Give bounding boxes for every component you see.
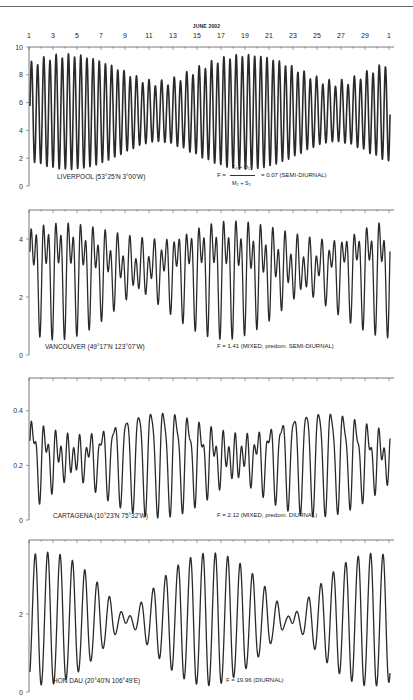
tide-panel-0: 0246810 [15, 44, 394, 190]
y-tick-label: 2 [19, 155, 23, 162]
y-tick-label: 0 [19, 352, 23, 359]
form-factor-hon-dau: F = 19.96 (DIURNAL) [226, 677, 284, 683]
tide-curve [30, 552, 390, 686]
station-label-hon-dau: HON DAU (20°40'N 106°49'E) [53, 677, 140, 684]
y-tick-label: 2 [19, 611, 23, 618]
y-tick-label: 6 [19, 99, 23, 106]
formula-numerator: K₁ + O₁ [232, 164, 250, 170]
y-tick-label: 0.2 [13, 462, 23, 469]
tide-curve [30, 54, 390, 170]
form-factor-vancouver: F = 1.41 (MIXED, predom. SEMI-DIURNAL) [217, 343, 334, 349]
y-tick-label: 0 [19, 517, 23, 524]
y-tick-label: 0 [19, 689, 23, 696]
y-tick-label: 4 [19, 236, 23, 243]
tide-panel-1: 024 [19, 210, 394, 359]
tide-plot-area: 024681002400.20.402 [0, 0, 413, 700]
station-label-liverpool: LIVERPOOL (53°25'N 3°00'W) [57, 173, 145, 180]
y-tick-label: 8 [19, 71, 23, 78]
station-label-vancouver: VANCOUVER (49°17'N 123°07'W) [45, 343, 145, 350]
y-tick-label: 10 [15, 44, 23, 51]
y-tick-label: 2 [19, 294, 23, 301]
formula-denominator: M₂ + S₂ [232, 180, 251, 186]
form-factor-cartagena: F = 2.12 (MIXED, predom. DIURNAL) [217, 512, 317, 518]
formula-fraction-line [230, 175, 255, 176]
y-tick-label: 0 [19, 183, 23, 190]
tide-panel-3: 02 [19, 540, 394, 696]
y-tick-label: 4 [19, 127, 23, 134]
tide-curve [30, 221, 390, 340]
y-tick-label: 0.4 [13, 407, 23, 414]
station-label-cartagena: CARTAGENA (10°23'N 75°32'W) [53, 512, 148, 519]
tide-curve [30, 413, 390, 518]
tide-panel-2: 00.20.4 [13, 378, 394, 524]
form-factor-liverpool: = 0.07 (SEMI-DIURNAL) [261, 172, 327, 178]
formula-lhs: F = [217, 172, 226, 178]
